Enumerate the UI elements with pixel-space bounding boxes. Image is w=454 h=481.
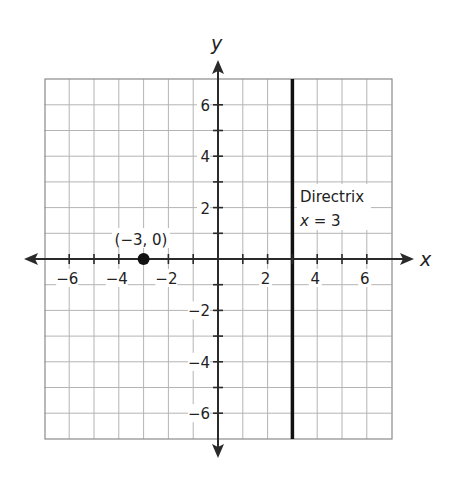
x-tick-label: −2 xyxy=(155,270,177,288)
directrix-equation-rest: = 3 xyxy=(309,212,341,230)
x-tick-label: −6 xyxy=(56,270,78,288)
y-tick-label: 2 xyxy=(200,200,210,218)
directrix-label: Directrix xyxy=(300,188,364,206)
y-tick-label: 4 xyxy=(200,148,210,166)
point-marker xyxy=(138,253,150,265)
point-label: (−3, 0) xyxy=(115,231,168,249)
directrix-equation-var: x xyxy=(299,212,309,230)
y-tick-label: −4 xyxy=(188,354,210,372)
coordinate-plane: −6−4−2246 642−2−4−6 x y (−3, 0) Directri… xyxy=(0,0,454,481)
x-tick-label: 4 xyxy=(310,270,320,288)
x-axis-label: x xyxy=(419,248,432,270)
x-tick-label: −4 xyxy=(106,270,128,288)
y-tick-label: −2 xyxy=(188,302,210,320)
y-axis-label: y xyxy=(210,32,223,54)
x-tick-label: 2 xyxy=(261,270,271,288)
y-tick-label: −6 xyxy=(188,405,210,423)
x-tick-label: 6 xyxy=(360,270,370,288)
y-tick-label: 6 xyxy=(200,97,210,115)
directrix-equation: x = 3 xyxy=(299,212,341,230)
